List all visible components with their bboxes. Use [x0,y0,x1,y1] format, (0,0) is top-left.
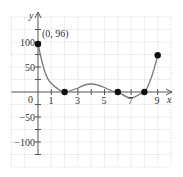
point-y-intercept [35,41,41,47]
x-tick-label-9: 9 [155,95,160,106]
point-root-6 [115,89,121,95]
point-root-2 [61,89,67,95]
x-axis-label: x [166,94,172,105]
y-tick-label-neg100: −100 [14,137,35,148]
point-root-8 [141,89,147,95]
x-tick-label-1: 1 [49,95,54,106]
point-end-9 [155,52,161,58]
polynomial-chart: y x (0, 96) 0 1 3 5 7 9 100 50 −50 −100 [0,0,183,177]
data-points [35,41,161,95]
x-tick-label-3: 3 [75,95,80,106]
origin-label: 0 [28,94,33,105]
y-tick-label-neg50: −50 [19,112,35,123]
point-annotation: (0, 96) [42,28,69,40]
y-tick-label-50: 50 [25,62,35,73]
polynomial-curve [38,44,158,98]
y-axis-label: y [28,10,34,21]
x-tick-label-5: 5 [102,95,107,106]
x-tick-label-7: 7 [128,95,133,106]
y-tick-label-100: 100 [20,37,35,48]
